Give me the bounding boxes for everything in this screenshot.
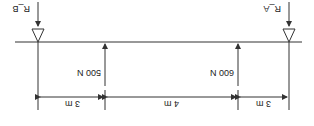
- right-load-label: 600 N: [210, 68, 234, 78]
- support-triangle-icon: [32, 29, 44, 42]
- right-reaction-label: R_A: [263, 4, 281, 14]
- support-triangle-icon: [283, 29, 295, 42]
- left-load-label: 500 N: [77, 68, 101, 78]
- dim-label-1: 3 m: [65, 99, 80, 109]
- right-support: R_A: [263, 2, 295, 110]
- dim-label-2: 4 m: [164, 99, 179, 109]
- dim-label-3: 3 m: [256, 99, 271, 109]
- left-support: R_B: [12, 2, 44, 110]
- dimension-lines: 3 m 4 m 3 m: [40, 97, 287, 109]
- beam-diagram: R_B R_A 500 N 600 N 3 m 4 m 3 m: [0, 0, 314, 126]
- right-load: 600 N: [210, 44, 238, 110]
- left-load: 500 N: [77, 44, 105, 110]
- left-reaction-label: R_B: [12, 4, 30, 14]
